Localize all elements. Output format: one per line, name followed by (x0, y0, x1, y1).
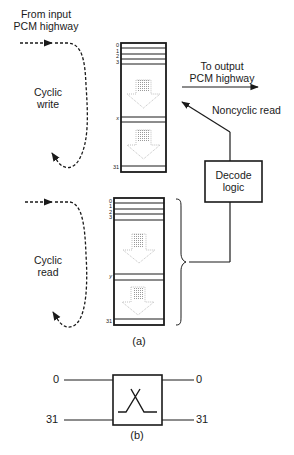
read-store-brace (176, 199, 186, 325)
decode-logic-label: Decode logic (205, 169, 262, 193)
read-store (114, 198, 164, 325)
write-index-3: 3 (109, 59, 119, 65)
cyclic-write-label: Cyclic write (28, 86, 68, 110)
caption-a: (a) (124, 335, 154, 347)
read-pointer-y: y (102, 273, 112, 279)
decode-connection (189, 202, 230, 262)
write-pointer-x: x (109, 115, 119, 121)
cyclic-read-label: Cyclic read (28, 254, 68, 278)
read-index-31: 31 (102, 318, 112, 324)
input-highway-label: From input PCM highway (10, 8, 82, 32)
switch-in-bottom-label: 31 (46, 413, 58, 425)
switch-out-top-label: 0 (196, 373, 202, 385)
output-highway-label: To output PCM highway (186, 60, 258, 84)
caption-b: (b) (122, 429, 152, 441)
write-index-31: 31 (109, 164, 119, 170)
write-store (121, 43, 166, 172)
read-index-3: 3 (102, 214, 112, 220)
switch-out-bottom-label: 31 (196, 413, 208, 425)
switch-symbol (64, 375, 194, 425)
noncyclic-read-label: Noncyclic read (212, 104, 292, 116)
switch-in-top-label: 0 (53, 373, 59, 385)
